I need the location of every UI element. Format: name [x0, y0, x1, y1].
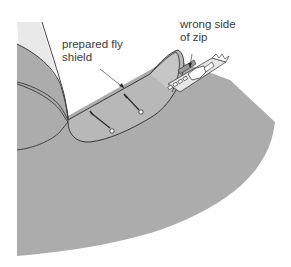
- sewing-diagram: prepared fly shield wrong side of zip: [0, 0, 291, 267]
- diagram-illustration: [0, 0, 291, 267]
- fly-shield-label-line2: shield: [62, 51, 123, 64]
- fly-shield-label-line1: prepared fly: [62, 38, 123, 51]
- fly-shield-label: prepared fly shield: [62, 38, 123, 64]
- zip-label: wrong side of zip: [180, 18, 236, 44]
- zip-label-line1: wrong side: [180, 18, 236, 31]
- fly-shield-pointer-arrow: [100, 69, 124, 88]
- zip-label-line2: of zip: [180, 31, 236, 44]
